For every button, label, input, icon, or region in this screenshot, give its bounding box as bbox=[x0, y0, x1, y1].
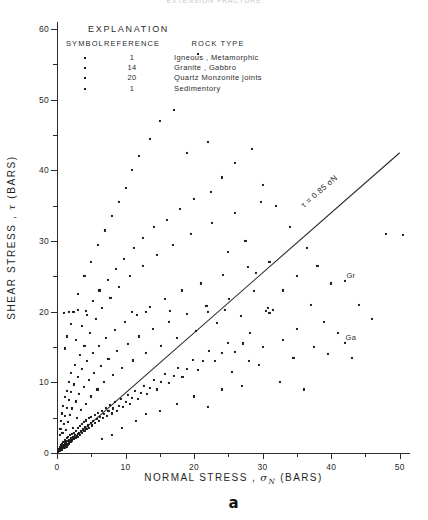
data-point bbox=[231, 371, 233, 373]
data-point bbox=[249, 332, 251, 334]
data-point bbox=[103, 381, 105, 383]
data-point bbox=[123, 258, 125, 260]
data-point bbox=[124, 321, 126, 323]
data-point bbox=[292, 357, 294, 359]
y-tick-label-0: 0 bbox=[44, 448, 49, 458]
legend-reference: 20 bbox=[104, 73, 160, 83]
data-point bbox=[289, 226, 291, 228]
data-point bbox=[234, 162, 236, 164]
x-tick-20 bbox=[194, 453, 195, 459]
data-point bbox=[207, 141, 209, 143]
data-point bbox=[145, 311, 147, 313]
data-point bbox=[337, 332, 339, 334]
data-point bbox=[146, 393, 148, 395]
data-point bbox=[152, 328, 154, 330]
x-axis-title: NORMAL STRESS , σN (BARS) bbox=[57, 472, 410, 486]
data-point bbox=[402, 234, 404, 236]
data-point bbox=[262, 346, 264, 348]
data-point bbox=[258, 364, 260, 366]
data-point bbox=[75, 339, 77, 341]
data-point bbox=[186, 152, 188, 154]
dot-marker bbox=[66, 83, 104, 93]
data-point bbox=[111, 215, 113, 217]
data-point bbox=[105, 407, 107, 409]
data-point bbox=[186, 313, 188, 315]
data-point bbox=[220, 388, 222, 390]
x-tick-minor-15 bbox=[160, 453, 161, 457]
data-point bbox=[135, 313, 137, 315]
data-point bbox=[279, 381, 281, 383]
data-point bbox=[142, 236, 144, 238]
data-point bbox=[85, 402, 87, 404]
data-point bbox=[242, 342, 244, 344]
data-point bbox=[98, 345, 100, 347]
data-point bbox=[220, 176, 222, 178]
data-point bbox=[116, 410, 118, 412]
data-point bbox=[68, 311, 70, 313]
data-point bbox=[107, 358, 109, 360]
data-point bbox=[92, 300, 94, 302]
data-point bbox=[116, 350, 118, 352]
data-point bbox=[210, 191, 212, 193]
data-point bbox=[77, 309, 79, 311]
x-tick-label-10: 10 bbox=[121, 462, 131, 472]
data-point bbox=[265, 310, 267, 312]
data-point bbox=[77, 436, 79, 438]
data-point bbox=[121, 366, 123, 368]
data-point bbox=[282, 339, 284, 341]
data-point bbox=[169, 310, 171, 312]
point-annotation-gr: Gr bbox=[346, 271, 355, 280]
data-point bbox=[145, 413, 147, 415]
y-tick-label-20: 20 bbox=[39, 307, 49, 317]
x-tick-minor-25 bbox=[228, 453, 229, 457]
data-point bbox=[282, 289, 284, 291]
data-point bbox=[121, 427, 123, 429]
data-point bbox=[296, 275, 298, 277]
data-point bbox=[109, 404, 111, 406]
x-tick-label-40: 40 bbox=[326, 462, 336, 472]
legend-row: 1Igneous , Metamorphic bbox=[66, 52, 262, 62]
x-tick-50 bbox=[400, 453, 401, 459]
data-point bbox=[143, 385, 145, 387]
legend-row: 20Quartz Monzonite joints bbox=[66, 73, 262, 83]
data-point bbox=[181, 289, 183, 291]
legend-header-reference: REFERENCE bbox=[104, 39, 160, 52]
legend-rock-type: Igneous , Metamorphic bbox=[160, 52, 262, 62]
data-point bbox=[176, 402, 178, 404]
data-point bbox=[156, 254, 158, 256]
legend-rock-type: Granite , Gabbro bbox=[160, 62, 262, 72]
data-point bbox=[207, 311, 209, 313]
data-point bbox=[72, 311, 74, 313]
data-point bbox=[327, 353, 329, 355]
legend-header-row: SYMBOL REFERENCE ROCK TYPE bbox=[66, 39, 262, 52]
y-axis-title: SHEAR STRESS , τ (BARS) bbox=[6, 22, 20, 453]
data-point bbox=[94, 414, 96, 416]
data-point bbox=[272, 309, 274, 311]
data-point bbox=[140, 392, 142, 394]
data-point bbox=[153, 226, 155, 228]
data-point bbox=[220, 352, 222, 354]
data-point bbox=[74, 400, 76, 402]
data-point bbox=[77, 293, 79, 295]
x-tick-label-0: 0 bbox=[54, 462, 59, 472]
data-point bbox=[224, 309, 226, 311]
data-point bbox=[81, 423, 83, 425]
data-point bbox=[81, 325, 83, 327]
data-point bbox=[313, 346, 315, 348]
data-point bbox=[59, 434, 61, 436]
data-point bbox=[172, 244, 174, 246]
data-point bbox=[72, 427, 74, 429]
data-point bbox=[111, 434, 113, 436]
legend-marker-icon bbox=[84, 77, 86, 79]
data-point bbox=[115, 268, 117, 270]
data-point bbox=[127, 394, 129, 396]
data-point bbox=[344, 280, 346, 282]
y-tick-label-50: 50 bbox=[39, 95, 49, 105]
x-tick-10 bbox=[126, 453, 127, 459]
data-point bbox=[166, 219, 168, 221]
data-point bbox=[97, 412, 99, 414]
data-point bbox=[111, 412, 113, 414]
data-point bbox=[244, 240, 246, 242]
data-point bbox=[68, 399, 70, 401]
legend-marker-icon bbox=[84, 88, 86, 90]
